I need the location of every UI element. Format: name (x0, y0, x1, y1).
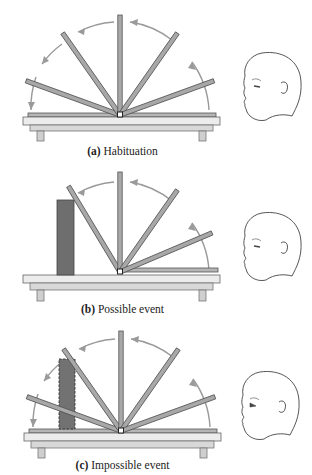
panel-caption: (a) Habituation (0, 145, 245, 157)
pivot (119, 428, 124, 433)
table-leg-right (199, 290, 206, 301)
table-leg-left (37, 131, 44, 141)
infant-head-icon (242, 371, 299, 439)
panel-letter: (a) (87, 145, 100, 157)
screen-floor (122, 268, 218, 272)
habituation-diagram (0, 0, 312, 160)
screen-positions (26, 331, 215, 433)
screen-positions (25, 15, 214, 117)
table-top (24, 433, 221, 441)
panel-letter: (c) (76, 459, 89, 471)
pivot (118, 112, 123, 117)
arrowheads (78, 179, 196, 231)
panel-habituation: (a) Habituation (0, 0, 312, 160)
infant-head-icon (244, 52, 301, 120)
table-top (23, 117, 220, 125)
box-dashed (59, 359, 75, 429)
table-top (23, 275, 220, 283)
impossible-event-diagram (0, 315, 312, 475)
infant-head-icon (244, 212, 301, 280)
panel-possible-event: (b) Possible event (0, 160, 312, 320)
table-leg-left (37, 290, 44, 301)
panel-caption: (b) Possible event (0, 303, 245, 315)
box-solid (57, 200, 74, 275)
panel-impossible-event: (c) Impossible event (0, 315, 312, 475)
table-leg-left (38, 448, 45, 458)
panel-caption: (c) Impossible event (0, 459, 245, 471)
table-apron (30, 125, 213, 131)
panel-title: Possible event (98, 303, 164, 315)
rotation-arrows (78, 182, 209, 271)
panel-title: Habituation (104, 145, 158, 157)
table-leg-right (199, 131, 206, 141)
pivot (118, 269, 123, 274)
table-apron (30, 283, 213, 290)
table-leg-right (200, 448, 207, 458)
panel-title: Impossible event (91, 459, 169, 471)
possible-event-diagram (0, 160, 312, 320)
panel-letter: (b) (81, 303, 95, 315)
table-apron (31, 441, 214, 448)
